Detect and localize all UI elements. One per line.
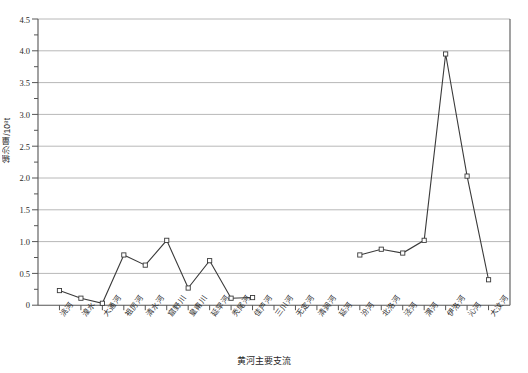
plot-area (0, 0, 528, 373)
data-point-marker (358, 253, 362, 257)
x-axis-title: 黄河主要支流 (0, 354, 528, 367)
data-point-marker (444, 52, 448, 56)
data-point-marker (186, 286, 190, 290)
data-point-marker (486, 278, 490, 282)
data-point-marker (57, 288, 61, 292)
data-point-marker (379, 247, 383, 251)
data-point-marker (401, 251, 405, 255)
y-tick-marks (32, 19, 38, 305)
data-point-marker (165, 238, 169, 242)
data-point-marker (465, 174, 469, 178)
data-point-marker (208, 259, 212, 263)
data-point-marker (422, 238, 426, 242)
chart-figure: 输沙量/10⁸t 4.5 4.0 3.5 3.0 2.5 2.0 1.5 1.0… (0, 0, 528, 373)
plot-background (38, 19, 510, 305)
data-point-marker (143, 263, 147, 267)
data-point-marker (122, 253, 126, 257)
data-point-marker (79, 296, 83, 300)
